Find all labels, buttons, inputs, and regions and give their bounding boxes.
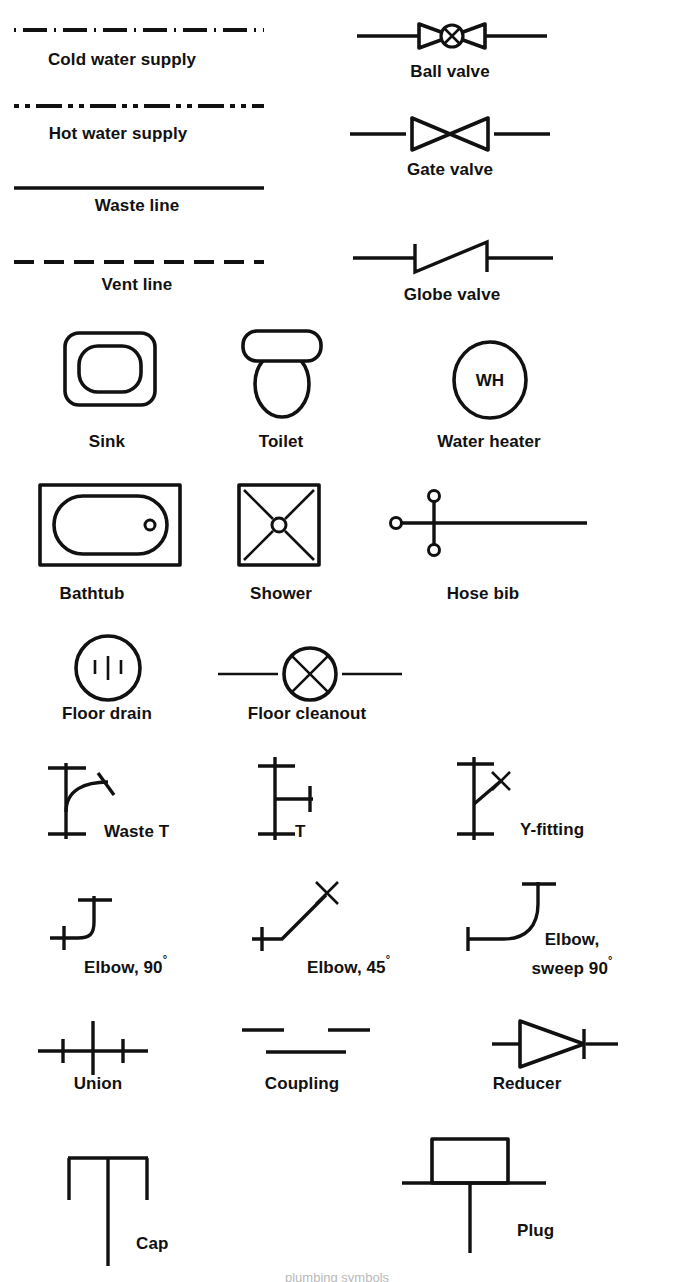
vent-line-icon <box>14 256 264 268</box>
floor-cleanout-label: Floor cleanout <box>248 704 367 724</box>
gate-valve-label: Gate valve <box>407 160 493 180</box>
ball-valve-label: Ball valve <box>410 62 489 82</box>
elbow-45-icon <box>240 876 350 956</box>
water-heater-label: Water heater <box>437 432 541 452</box>
plug-label: Plug <box>517 1221 554 1241</box>
hose-bib-icon <box>387 488 587 558</box>
waste-line-label: Waste line <box>95 196 179 216</box>
globe-valve-label: Globe valve <box>404 285 501 305</box>
waste-line-icon <box>14 183 264 193</box>
floor-cleanout-icon <box>218 645 402 703</box>
elbow-90-label: Elbow, 90° <box>84 949 167 978</box>
globe-valve-icon <box>353 234 553 274</box>
cold-water-supply-label: Cold water supply <box>48 50 196 70</box>
bathtub-label: Bathtub <box>60 584 125 604</box>
gate-valve-icon <box>350 112 550 152</box>
coupling-label: Coupling <box>265 1074 339 1094</box>
elbow-90-icon <box>42 884 142 956</box>
elbow-45-label: Elbow, 45° <box>307 949 390 978</box>
waste-t-label: Waste T <box>104 822 169 842</box>
degree-symbol: ° <box>386 953 391 965</box>
reducer-label: Reducer <box>493 1074 562 1094</box>
coupling-icon <box>240 1018 370 1068</box>
shower-label: Shower <box>250 584 312 604</box>
floor-drain-label: Floor drain <box>62 704 152 724</box>
toilet-icon <box>235 328 329 418</box>
t-fitting-label: T <box>295 822 305 842</box>
plug-icon <box>400 1133 560 1263</box>
toilet-label: Toilet <box>259 432 304 452</box>
elbow-sweep-90-label: Elbow,sweep 90° <box>532 930 613 979</box>
floor-drain-icon <box>73 633 143 703</box>
cap-icon <box>60 1152 170 1272</box>
reducer-icon <box>490 1013 620 1071</box>
hot-water-supply-icon <box>14 100 264 112</box>
y-fitting-label: Y-fitting <box>520 820 584 840</box>
shower-icon <box>236 482 322 568</box>
cap-label: Cap <box>136 1234 168 1254</box>
cold-water-supply-icon <box>14 24 264 36</box>
ball-valve-icon <box>357 18 547 54</box>
sink-icon <box>62 330 158 408</box>
water-heater-icon: WH <box>450 339 530 421</box>
degree-symbol: ° <box>163 953 168 965</box>
bottom-partial-caption: plumbing symbols <box>0 1270 674 1282</box>
water-heater-abbrev: WH <box>476 371 504 390</box>
union-icon <box>33 1013 153 1081</box>
degree-symbol: ° <box>608 954 613 966</box>
sink-label: Sink <box>89 432 125 452</box>
bathtub-icon <box>37 482 183 568</box>
vent-line-label: Vent line <box>102 275 173 295</box>
union-label: Union <box>74 1074 123 1094</box>
hot-water-supply-label: Hot water supply <box>49 124 188 144</box>
hose-bib-label: Hose bib <box>447 584 520 604</box>
